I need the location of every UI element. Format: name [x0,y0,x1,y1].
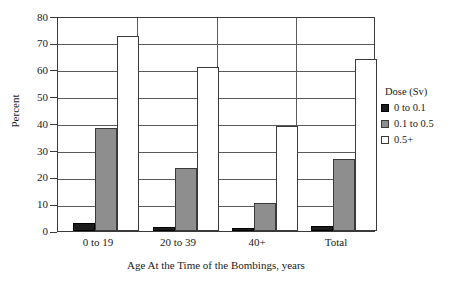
y-tick-mark [50,70,57,71]
y-axis: 80 70 60 50 40 30 20 10 0 Percent [0,0,57,250]
y-tick-label: 60 [8,65,48,76]
y-tick-mark [50,17,57,18]
y-tick-mark [50,151,57,152]
gridline [58,44,374,45]
legend-swatch-icon [381,104,389,112]
x-tick-label-40plus: 40+ [217,236,297,248]
y-tick-label: 10 [8,199,48,210]
bar-total-dose-0.1to0.5 [333,159,355,231]
legend-item-0.5plus: 0.5+ [381,134,456,145]
x-axis-title: Age At the Time of the Bombings, years [57,259,375,271]
bar-20to39-dose-0.1to0.5 [175,168,197,231]
legend-swatch-icon [381,120,389,128]
bar-chart: 80 70 60 50 40 30 20 10 0 Percent [0,0,456,284]
plot-area [57,17,375,232]
bar-40plus-dose-0to0.1 [232,228,254,231]
bar-total-dose-0.5plus [355,59,377,231]
y-tick-mark [50,124,57,125]
y-tick-mark [50,232,57,233]
y-tick-label: 20 [8,172,48,183]
legend-label: 0 to 0.1 [394,102,426,113]
bar-40plus-dose-0.5plus [276,126,298,231]
x-tick-label-0to19: 0 to 19 [58,236,138,248]
bar-0to19-dose-0to0.1 [73,223,95,231]
legend-title: Dose (Sv) [385,86,456,97]
y-tick-mark [50,97,57,98]
x-tick-label-total: Total [296,236,376,248]
bar-total-dose-0to0.1 [311,226,333,231]
x-tick-label-20to39: 20 to 39 [138,236,218,248]
y-tick-mark [50,178,57,179]
y-tick-label: 30 [8,146,48,157]
legend-label: 0.1 to 0.5 [394,118,434,129]
y-tick-label: 70 [8,38,48,49]
legend-item-0.1to0.5: 0.1 to 0.5 [381,118,456,129]
legend-item-0to0.1: 0 to 0.1 [381,102,456,113]
y-tick-label: 80 [8,12,48,23]
y-axis-title: Percent [9,76,21,146]
legend-swatch-icon [381,136,389,144]
bar-0to19-dose-0.5plus [117,36,139,231]
y-tick-label: 0 [8,226,48,237]
bar-0to19-dose-0.1to0.5 [95,128,117,231]
bar-40plus-dose-0.1to0.5 [254,203,276,231]
y-tick-mark [50,44,57,45]
bar-20to39-dose-0to0.1 [153,227,175,231]
legend-label: 0.5+ [394,134,413,145]
bar-20to39-dose-0.5plus [197,67,219,231]
y-tick-mark [50,205,57,206]
legend: Dose (Sv) 0 to 0.1 0.1 to 0.5 0.5+ [381,86,456,150]
